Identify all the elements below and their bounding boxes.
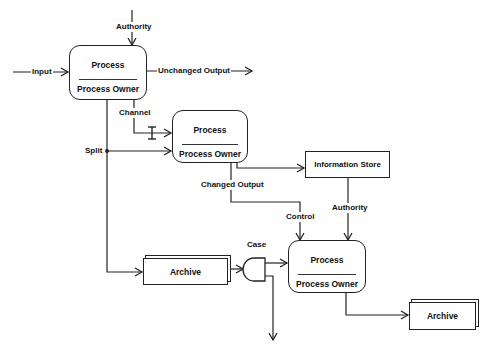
process-owner: Process Owner [70, 84, 146, 94]
information-store[interactable]: Information Store [305, 151, 390, 178]
process-owner: Process Owner [173, 149, 247, 159]
split-dot-icon [105, 149, 109, 153]
archive-label: Archive [143, 258, 228, 285]
label-unchanged-output: Unchanged Output [157, 66, 231, 76]
process-divider [298, 274, 356, 275]
process-title: Process [173, 125, 247, 135]
label-authority-store: Authority [331, 203, 369, 213]
label-split: Split [84, 146, 103, 156]
label-control: Control [285, 212, 315, 222]
process-diagram: Authority Input Unchanged Output Channel… [0, 0, 491, 352]
process-box-2[interactable]: Process Process Owner [172, 110, 248, 163]
process-divider [79, 79, 137, 80]
label-channel: Channel [118, 108, 152, 118]
process-title: Process [289, 255, 365, 265]
case-gate-icon [243, 258, 265, 281]
label-changed-output: Changed Output [200, 180, 265, 190]
label-input: Input [31, 67, 53, 77]
archive-2[interactable]: Archive [409, 302, 476, 330]
process-owner: Process Owner [289, 279, 365, 289]
label-case: Case [246, 240, 267, 250]
label-authority-top: Authority [115, 22, 153, 32]
process-divider [182, 144, 238, 145]
process-title: Process [70, 60, 146, 70]
archive-label: Archive [409, 302, 476, 330]
process-box-1[interactable]: Process Process Owner [69, 45, 147, 100]
process-box-3[interactable]: Process Process Owner [288, 240, 366, 293]
archive-1[interactable]: Archive [143, 258, 228, 285]
